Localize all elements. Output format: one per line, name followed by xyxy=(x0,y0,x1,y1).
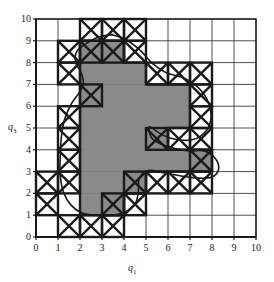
y-tick-label: 8 xyxy=(16,58,31,68)
x-tick-label: 3 xyxy=(96,243,108,253)
x-tick-label: 0 xyxy=(30,243,42,253)
y-tick-label: 3 xyxy=(16,167,31,177)
x-tick-label: 9 xyxy=(228,243,240,253)
y-tick-label: 10 xyxy=(16,14,31,24)
y-tick-label: 1 xyxy=(16,210,31,220)
y-tick-label: 7 xyxy=(16,79,31,89)
x-tick-label: 5 xyxy=(140,243,152,253)
x-tick-label: 2 xyxy=(74,243,86,253)
y-tick-label: 5 xyxy=(16,123,31,133)
x-tick-label: 8 xyxy=(206,243,218,253)
x-tick-label: 6 xyxy=(162,243,174,253)
y-tick-label: 0 xyxy=(16,232,31,242)
x-tick-label: 1 xyxy=(52,243,64,253)
x-tick-label: 10 xyxy=(250,243,262,253)
y-axis-label: q3 xyxy=(8,122,17,135)
y-tick-label: 2 xyxy=(16,188,31,198)
x-axis-label: q1 xyxy=(128,263,137,276)
y-tick-label: 9 xyxy=(16,36,31,46)
x-tick-label: 7 xyxy=(184,243,196,253)
figure-container: 012345678910 012345678910 q1 q3 xyxy=(0,0,274,282)
grid-plot-svg xyxy=(0,0,274,282)
y-tick-label: 6 xyxy=(16,101,31,111)
y-tick-label: 4 xyxy=(16,145,31,155)
x-tick-label: 4 xyxy=(118,243,130,253)
